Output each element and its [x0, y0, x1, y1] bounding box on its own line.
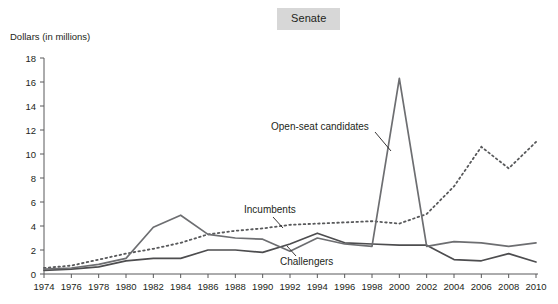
x-tick-label: 2008 [498, 281, 519, 292]
x-tick-label: 1974 [33, 281, 54, 292]
y-tick-label: 10 [25, 149, 36, 160]
series-group [44, 78, 536, 270]
y-tick-label: 4 [31, 221, 36, 232]
annotation-incumbents: Incumbents [244, 204, 296, 228]
x-tick-label: 1982 [143, 281, 164, 292]
x-tick-label: 2010 [525, 281, 546, 292]
x-tick-label: 1976 [61, 281, 82, 292]
y-axis: 024681012141618 [25, 53, 44, 280]
annotation-openseat-label: Open-seat candidates [271, 121, 369, 132]
y-tick-label: 14 [25, 101, 36, 112]
x-tick-label: 1994 [307, 281, 328, 292]
x-tick-label: 1986 [197, 281, 218, 292]
y-tick-label: 0 [31, 269, 36, 280]
x-tick-label: 1978 [88, 281, 109, 292]
x-tick-label: 2006 [471, 281, 492, 292]
x-tick-label: 1988 [225, 281, 246, 292]
annotation-openseat: Open-seat candidates [271, 121, 391, 151]
y-tick-label: 8 [31, 173, 36, 184]
y-tick-label: 16 [25, 77, 36, 88]
x-tick-label: 1984 [170, 281, 191, 292]
x-tick-label: 1998 [361, 281, 382, 292]
y-tick-label: 12 [25, 125, 36, 136]
x-tick-label: 1996 [334, 281, 355, 292]
x-tick-label: 1990 [252, 281, 273, 292]
y-tick-label: 6 [31, 197, 36, 208]
annotation-incumbents-label: Incumbents [244, 204, 296, 215]
y-tick-label: 18 [25, 53, 36, 64]
y-tick-label: 2 [31, 245, 36, 256]
x-tick-label: 2002 [416, 281, 437, 292]
line-chart-svg: 024681012141618 197419761978198019821984… [0, 0, 558, 304]
x-tick-label: 1992 [279, 281, 300, 292]
x-tick-label: 1980 [115, 281, 136, 292]
annotation-challengers-label: Challengers [280, 256, 333, 267]
x-axis: 1974197619781980198219841986198819901992… [33, 274, 546, 292]
chart-root: Senate Dollars (in millions) 02468101214… [0, 0, 558, 304]
annotation-challengers: Challengers [280, 246, 333, 267]
x-tick-label: 2004 [443, 281, 464, 292]
x-tick-label: 2000 [389, 281, 410, 292]
